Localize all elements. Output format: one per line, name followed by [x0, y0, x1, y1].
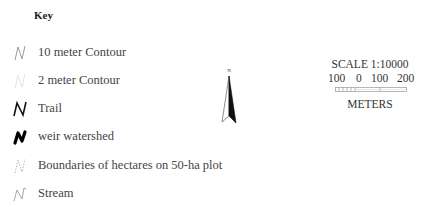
scale-tick-labels: 100 0 100 200	[320, 72, 424, 86]
contour-10m-icon	[12, 44, 28, 62]
legend-item-weir-watershed: weir watershed	[0, 127, 230, 147]
scale-units: METERS	[320, 98, 420, 110]
hectare-boundary-icon	[12, 157, 28, 175]
scale-tick: 0	[356, 72, 362, 84]
weir-watershed-icon	[12, 128, 28, 146]
legend-item-10m-contour: 10 meter Contour	[0, 43, 230, 63]
north-arrow: N	[218, 66, 242, 128]
legend-title: Key	[34, 9, 53, 21]
legend-label: Boundaries of hectares on 50-ha plot	[38, 158, 222, 173]
legend-label: weir watershed	[38, 129, 114, 144]
contour-2m-icon	[12, 72, 28, 90]
north-label: N	[227, 68, 231, 73]
scale-title: SCALE 1:10000	[320, 58, 420, 70]
scale-tick: 100	[328, 72, 345, 84]
legend-item-2m-contour: 2 meter Contour	[0, 71, 230, 91]
stream-icon	[12, 185, 28, 203]
legend-label: 10 meter Contour	[38, 45, 126, 60]
legend-item-hectare-boundaries: Boundaries of hectares on 50-ha plot	[0, 156, 230, 176]
north-arrow-icon: N	[218, 66, 242, 128]
scale-tick: 200	[397, 72, 414, 84]
trail-icon	[12, 100, 28, 118]
legend-label: Trail	[38, 101, 62, 116]
legend-item-stream: Stream	[0, 184, 230, 204]
legend-label: Stream	[38, 186, 73, 201]
scale-bar-graphic	[335, 87, 407, 92]
legend-label: 2 meter Contour	[38, 73, 120, 88]
scale-bar-block: SCALE 1:10000 100 0 100 200 METERS	[320, 58, 424, 114]
scale-tick: 100	[371, 72, 388, 84]
legend-item-trail: Trail	[0, 99, 230, 119]
